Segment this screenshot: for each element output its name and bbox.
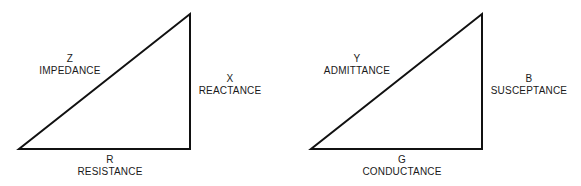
admittance-symbol: Y (317, 53, 397, 65)
resistance-text: RESISTANCE (70, 166, 150, 178)
reactance-label: X REACTANCE (190, 73, 270, 97)
susceptance-symbol: B (485, 73, 573, 85)
impedance-text: IMPEDANCE (30, 65, 110, 77)
susceptance-text: SUSCEPTANCE (485, 85, 573, 97)
reactance-symbol: X (190, 73, 270, 85)
resistance-symbol: R (70, 154, 150, 166)
reactance-text: REACTANCE (190, 85, 270, 97)
susceptance-label: B SUSCEPTANCE (485, 73, 573, 97)
admittance-triangle-shape (311, 14, 482, 149)
impedance-triangle-shape (19, 14, 190, 149)
conductance-text: CONDUCTANCE (357, 166, 447, 178)
conductance-symbol: G (357, 154, 447, 166)
admittance-text: ADMITTANCE (317, 65, 397, 77)
admittance-label: Y ADMITTANCE (317, 53, 397, 77)
resistance-label: R RESISTANCE (70, 154, 150, 178)
conductance-label: G CONDUCTANCE (357, 154, 447, 178)
impedance-label: Z IMPEDANCE (30, 53, 110, 77)
impedance-symbol: Z (30, 53, 110, 65)
